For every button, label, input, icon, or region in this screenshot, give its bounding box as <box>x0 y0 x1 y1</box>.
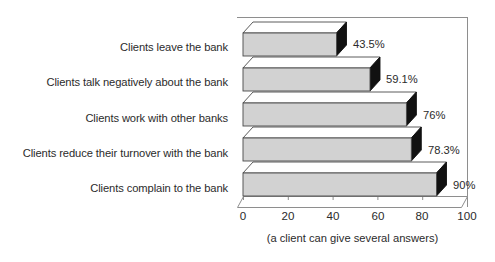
category-label: Clients work with other banks <box>0 112 228 124</box>
bar-segment[interactable] <box>243 162 447 196</box>
bar-segment[interactable] <box>243 127 421 161</box>
bar-segment[interactable] <box>243 22 347 56</box>
bar-chart: Clients leave the bank Clients talk nega… <box>0 0 495 262</box>
category-label: Clients reduce their turnover with the b… <box>0 147 228 159</box>
x-tick-label: 100 <box>457 209 476 222</box>
bar-segment[interactable] <box>243 57 380 91</box>
value-label: 43.5% <box>353 38 385 50</box>
bar-segment[interactable] <box>243 92 416 126</box>
chart-footnote: (a client can give several answers) <box>237 232 468 245</box>
category-label: Clients leave the bank <box>0 41 228 53</box>
category-label: Clients talk negatively about the bank <box>0 76 228 88</box>
x-tick-label: 80 <box>416 209 429 222</box>
value-label: 78.3% <box>428 144 460 156</box>
x-tick-label: 20 <box>282 209 295 222</box>
category-label: Clients complain to the bank <box>0 182 228 194</box>
category-axis-labels: Clients leave the bank Clients talk nega… <box>0 0 228 262</box>
x-tick-label: 60 <box>372 209 385 222</box>
axis-floor <box>237 196 468 208</box>
x-tick-label: 40 <box>327 209 340 222</box>
x-tick-label: 0 <box>240 209 246 222</box>
value-label: 90% <box>453 179 475 191</box>
value-label: 76% <box>423 109 445 121</box>
value-label: 59.1% <box>386 73 418 85</box>
